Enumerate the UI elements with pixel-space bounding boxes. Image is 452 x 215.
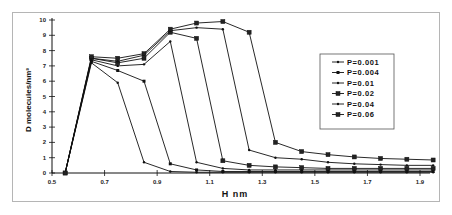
y-axis-label: D molecules/nm³: [24, 68, 33, 132]
data-point: [222, 28, 224, 30]
y-tick-label: 9: [43, 32, 47, 38]
data-point: [116, 56, 120, 60]
legend-label: P=0.04: [347, 100, 375, 109]
data-point: [406, 164, 408, 166]
data-point: [221, 170, 224, 173]
data-point: [169, 40, 171, 42]
data-point: [379, 156, 383, 160]
data-point: [300, 166, 304, 170]
data-point: [273, 165, 277, 169]
y-tick-label: 6: [43, 78, 47, 84]
data-point: [405, 157, 409, 161]
x-tick-label: 0.5: [48, 179, 57, 185]
legend-marker: [337, 82, 339, 84]
data-point: [274, 157, 276, 159]
data-point: [221, 159, 225, 163]
data-point: [169, 170, 171, 172]
data-point: [168, 27, 172, 31]
y-tick-label: 3: [43, 124, 47, 130]
x-tick-label: 1.7: [363, 179, 372, 185]
data-point: [327, 161, 329, 163]
data-point: [301, 158, 303, 160]
data-point: [143, 80, 146, 83]
data-point: [405, 166, 409, 170]
data-point: [195, 161, 197, 163]
legend-label: P=0.02: [347, 89, 375, 98]
legend-label: P=0.06: [347, 110, 375, 119]
data-point: [353, 163, 355, 165]
data-point: [116, 69, 119, 72]
data-point: [379, 166, 383, 170]
x-tick-label: 0.7: [100, 179, 109, 185]
y-tick-label: 5: [43, 94, 47, 100]
y-tick-label: 4: [43, 109, 47, 115]
y-tick-label: 7: [43, 63, 47, 69]
data-point: [143, 161, 145, 163]
legend-label: P=0.004: [347, 68, 380, 77]
legend-marker: [336, 113, 340, 117]
legend-marker: [337, 71, 340, 74]
data-point: [142, 52, 146, 56]
data-point: [169, 162, 172, 165]
data-point: [431, 158, 435, 162]
data-point: [379, 163, 381, 165]
y-tick-label: 8: [43, 48, 47, 54]
data-point: [273, 140, 277, 144]
x-axis-label: H nm: [222, 189, 249, 199]
y-tick-label: 2: [43, 139, 47, 145]
data-point: [326, 153, 330, 157]
data-point: [63, 171, 67, 175]
legend: P=0.001P=0.004P=0.01P=0.02P=0.04P=0.06: [320, 54, 394, 129]
data-point: [247, 30, 251, 34]
line-chart: 0123456789100.50.70.91.11.31.51.71.9 D m…: [0, 0, 452, 215]
data-point: [431, 166, 435, 170]
data-point: [247, 163, 251, 167]
data-point: [143, 63, 145, 65]
data-point: [248, 149, 250, 151]
legend-marker: [337, 61, 339, 63]
data-point: [195, 21, 199, 25]
legend-marker: [337, 103, 339, 105]
legend-marker: [336, 92, 340, 96]
legend-label: P=0.01: [347, 79, 375, 88]
data-point: [195, 26, 197, 28]
data-point: [89, 55, 93, 59]
data-point: [195, 36, 199, 40]
data-point: [248, 169, 250, 171]
data-point: [352, 155, 356, 159]
x-tick-label: 1.5: [311, 179, 320, 185]
data-point: [432, 164, 434, 166]
data-point: [300, 150, 304, 154]
data-point: [352, 166, 356, 170]
y-tick-label: 1: [43, 155, 47, 161]
data-point: [142, 56, 146, 60]
data-point: [195, 168, 198, 171]
data-point: [326, 166, 330, 170]
data-point: [222, 167, 224, 169]
x-tick-label: 1.9: [416, 179, 425, 185]
data-point: [221, 20, 225, 24]
data-point: [117, 82, 119, 84]
x-tick-label: 1.3: [258, 179, 267, 185]
x-tick-label: 0.9: [153, 179, 162, 185]
x-tick-label: 1.1: [206, 179, 215, 185]
y-tick-label: 0: [43, 170, 47, 176]
y-tick-label: 10: [39, 17, 46, 23]
legend-label: P=0.001: [347, 58, 379, 67]
